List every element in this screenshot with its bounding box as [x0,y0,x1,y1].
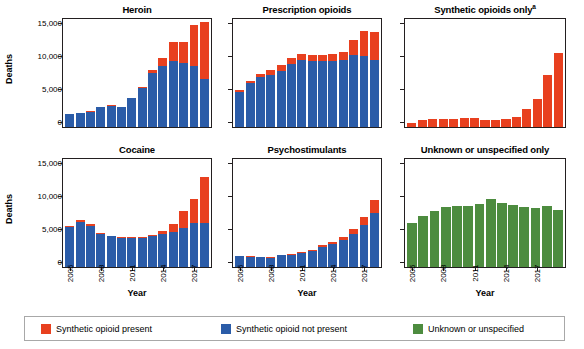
panel-heroin: Heroin [62,4,212,128]
bar [190,19,199,127]
y-tick-label: 5,000 [6,225,62,234]
bar [86,19,95,127]
bar [297,159,306,267]
bar-segment [200,22,209,78]
bar-segment [277,71,286,127]
bar [360,159,369,267]
bar-segment [148,236,157,267]
y-tick-label: 0 [6,258,62,267]
bar [138,159,147,267]
bar [407,159,417,267]
bar [533,19,542,127]
legend-item: Unknown or unspecified [413,317,524,340]
bar [200,159,209,267]
bar-segment [138,88,147,127]
bar [497,159,507,267]
bar-segment [501,119,510,127]
bar [480,19,489,127]
bar-segment [65,227,74,267]
bar-segment [200,79,209,127]
bar [65,159,74,267]
bar [491,19,500,127]
bar-segment [190,199,199,223]
bar-segment [463,206,473,267]
y-tick-label: 0 [6,118,62,127]
y-tickmark [400,122,404,123]
bar [256,159,265,267]
legend-swatch-synthetic-not-present [221,324,231,334]
bar-segment [318,61,327,127]
legend-label: Synthetic opioid present [56,324,152,334]
y-tickmark [228,229,232,230]
panel-title-unknown-or-unspecified-only: Unknown or unspecified only [404,144,566,156]
bar-segment [200,177,209,223]
bar-segment [169,232,178,267]
bar [287,159,296,267]
bar [76,19,85,127]
y-tickmark [400,229,404,230]
bar [542,159,552,267]
bar [328,159,337,267]
bar-segment [543,75,552,127]
bar-segment [508,205,518,268]
y-tickmark [400,56,404,57]
legend-label: Unknown or unspecified [428,324,524,334]
bar [246,19,255,127]
bar [179,19,188,127]
panel-title-prescription-opioids: Prescription opioids [232,4,382,16]
bar [501,19,510,127]
bar-segment [256,77,265,127]
bar [349,19,358,127]
bar [349,159,358,267]
bar [107,19,116,127]
y-tickmark [400,23,404,24]
panel-prescription-opioids: Prescription opioids [232,4,382,128]
bar-segment [76,113,85,127]
bar [522,19,531,127]
bar-segment [96,234,105,267]
panel-cocaine: Cocaine 20052008201120142017 Year [62,144,212,268]
y-tickmark [400,262,404,263]
bar [407,19,416,127]
bar [441,159,451,267]
bar [519,159,529,267]
y-tickmark [58,89,62,90]
bar [190,159,199,267]
bar [179,159,188,267]
bar-segment [297,60,306,127]
x-axis-label-unknown-or-unspecified-only: Year [404,288,566,298]
y-tickmark [228,56,232,57]
bar [86,159,95,267]
bar [235,19,244,127]
legend-label: Synthetic opioid not present [236,324,347,334]
bar-segment [190,66,199,127]
bar [439,19,448,127]
bar-segment [339,60,348,127]
bar-segment [452,206,462,267]
bar [543,19,552,127]
bars-heroin [63,19,211,127]
legend-swatch-synthetic-present [41,324,51,334]
bar-segment [65,114,74,127]
bar [117,159,126,267]
bar-segment [318,247,327,267]
bar-segment [246,257,255,267]
bar-segment [449,119,458,128]
bar-segment [148,73,157,127]
bar-segment [179,63,188,127]
bar [266,19,275,127]
bar [277,159,286,267]
bar [370,19,379,127]
bar [158,159,167,267]
bar-segment [475,204,485,267]
bar [138,19,147,127]
bar-segment [360,225,369,267]
bar [470,19,479,127]
panel-title-heroin: Heroin [62,4,212,16]
y-tickmark [228,262,232,263]
bar [65,19,74,127]
bar [554,19,563,127]
bar [328,19,337,127]
bar-segment [430,211,440,267]
bar-segment [308,251,317,267]
